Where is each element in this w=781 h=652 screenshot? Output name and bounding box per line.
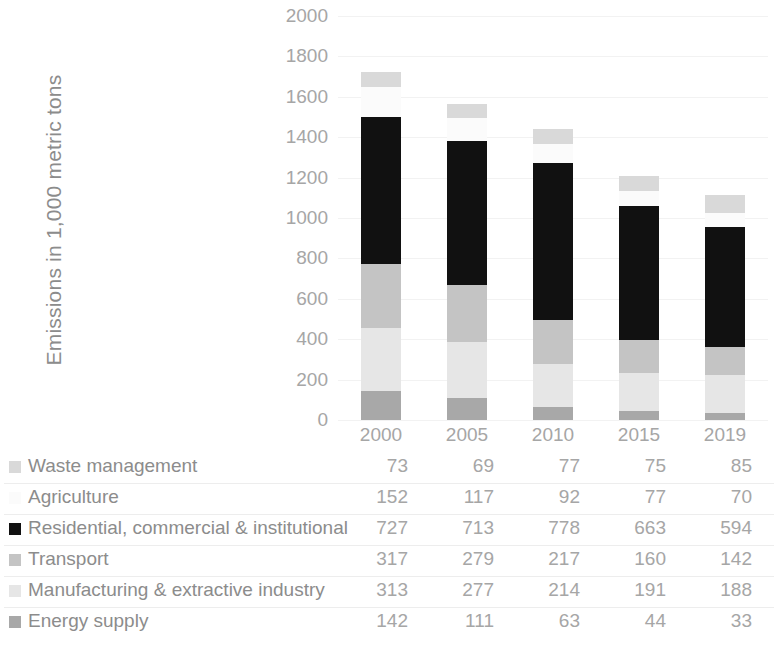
y-axis-tick-1000: 1000 (272, 207, 328, 229)
stacked-bar-chart: Emissions in 1,000 metric tons 200018001… (0, 0, 781, 448)
legend-swatch-icon (9, 554, 21, 566)
row-divider (4, 514, 774, 515)
bar-segment (361, 117, 401, 264)
x-axis-tick-2005: 2005 (427, 424, 507, 446)
x-axis-tick-labels: 20002005201020152019 (338, 424, 768, 452)
series-label: Residential, commercial & institutional (28, 517, 348, 539)
table-cell: 594 (682, 517, 752, 539)
bar-segment (705, 347, 745, 376)
table-row: Manufacturing & extractive industry31327… (0, 576, 781, 607)
x-axis-tick-2010: 2010 (513, 424, 593, 446)
table-cell: 77 (596, 486, 666, 508)
table-cell: 313 (338, 579, 408, 601)
bar-segment (705, 195, 745, 212)
row-divider (4, 607, 774, 608)
table-cell: 70 (682, 486, 752, 508)
bar-2010 (533, 16, 573, 420)
bar-segment (533, 407, 573, 420)
table-row: Agriculture152117927770 (0, 483, 781, 514)
bar-2015 (619, 16, 659, 420)
y-axis-tick-0: 0 (272, 409, 328, 431)
bar-segment (533, 320, 573, 364)
table-row: Energy supply142111634433 (0, 607, 781, 638)
bar-segment (361, 87, 401, 118)
table-cell: 85 (682, 455, 752, 477)
legend-swatch-icon (9, 616, 21, 628)
legend-swatch-icon (9, 523, 21, 535)
legend-swatch-icon (9, 461, 21, 473)
chart-data-table: Waste management7369777585Agriculture152… (0, 452, 781, 652)
bar-segment (705, 227, 745, 347)
y-axis-tick-1200: 1200 (272, 167, 328, 189)
bar-segment (705, 375, 745, 413)
legend-swatch-icon (9, 492, 21, 504)
bar-segment (361, 391, 401, 420)
bar-segment (619, 411, 659, 420)
table-cell: 277 (424, 579, 494, 601)
table-cell: 92 (510, 486, 580, 508)
series-label: Transport (28, 548, 109, 570)
x-axis-tick-2015: 2015 (599, 424, 679, 446)
table-cell: 160 (596, 548, 666, 570)
y-axis-tick-200: 200 (272, 369, 328, 391)
row-divider (4, 576, 774, 577)
y-axis-tick-1400: 1400 (272, 126, 328, 148)
row-divider (4, 545, 774, 546)
bar-segment (361, 328, 401, 391)
table-cell: 44 (596, 610, 666, 632)
plot-area (338, 16, 768, 420)
y-axis-tick-800: 800 (272, 247, 328, 269)
table-cell: 191 (596, 579, 666, 601)
y-axis-tick-2000: 2000 (272, 5, 328, 27)
table-row: Residential, commercial & institutional7… (0, 514, 781, 545)
bar-segment (447, 141, 487, 285)
table-cell: 75 (596, 455, 666, 477)
bar-segment (619, 373, 659, 412)
x-axis-tick-2000: 2000 (341, 424, 421, 446)
table-cell: 663 (596, 517, 666, 539)
row-divider (4, 483, 774, 484)
table-cell: 152 (338, 486, 408, 508)
series-label: Energy supply (28, 610, 148, 632)
table-cell: 77 (510, 455, 580, 477)
table-cell: 727 (338, 517, 408, 539)
bar-segment (619, 340, 659, 372)
legend-swatch-icon (9, 585, 21, 597)
table-cell: 214 (510, 579, 580, 601)
table-cell: 142 (682, 548, 752, 570)
series-label: Manufacturing & extractive industry (28, 579, 325, 601)
bar-segment (447, 342, 487, 398)
table-cell: 117 (424, 486, 494, 508)
bar-2005 (447, 16, 487, 420)
table-row: Transport317279217160142 (0, 545, 781, 576)
table-cell: 63 (510, 610, 580, 632)
bar-segment (447, 285, 487, 341)
y-axis-tick-600: 600 (272, 288, 328, 310)
y-axis-tick-labels: 2000180016001400120010008006004002000 (272, 0, 328, 448)
y-axis-tick-1800: 1800 (272, 45, 328, 67)
table-cell: 713 (424, 517, 494, 539)
table-cell: 142 (338, 610, 408, 632)
bar-segment (447, 118, 487, 142)
bar-segment (447, 398, 487, 420)
gridline (338, 420, 768, 421)
table-row: Waste management7369777585 (0, 452, 781, 483)
bar-segment (705, 213, 745, 227)
bar-segment (533, 364, 573, 407)
table-cell: 188 (682, 579, 752, 601)
series-label: Waste management (28, 455, 197, 477)
bar-segment (533, 163, 573, 320)
table-cell: 73 (338, 455, 408, 477)
bar-2019 (705, 16, 745, 420)
bar-2000 (361, 16, 401, 420)
x-axis-tick-2019: 2019 (685, 424, 765, 446)
y-axis-tick-400: 400 (272, 328, 328, 350)
table-cell: 69 (424, 455, 494, 477)
bar-segment (533, 144, 573, 163)
bar-segment (361, 72, 401, 87)
table-cell: 217 (510, 548, 580, 570)
table-cell: 778 (510, 517, 580, 539)
table-cell: 279 (424, 548, 494, 570)
y-axis-tick-1600: 1600 (272, 86, 328, 108)
bar-segment (447, 104, 487, 118)
